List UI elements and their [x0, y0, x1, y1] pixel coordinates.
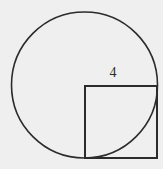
figure-canvas: 4 [0, 0, 163, 169]
side-length-label: 4 [106, 66, 120, 80]
geometry-figure [0, 0, 163, 169]
figure-background [0, 0, 163, 169]
